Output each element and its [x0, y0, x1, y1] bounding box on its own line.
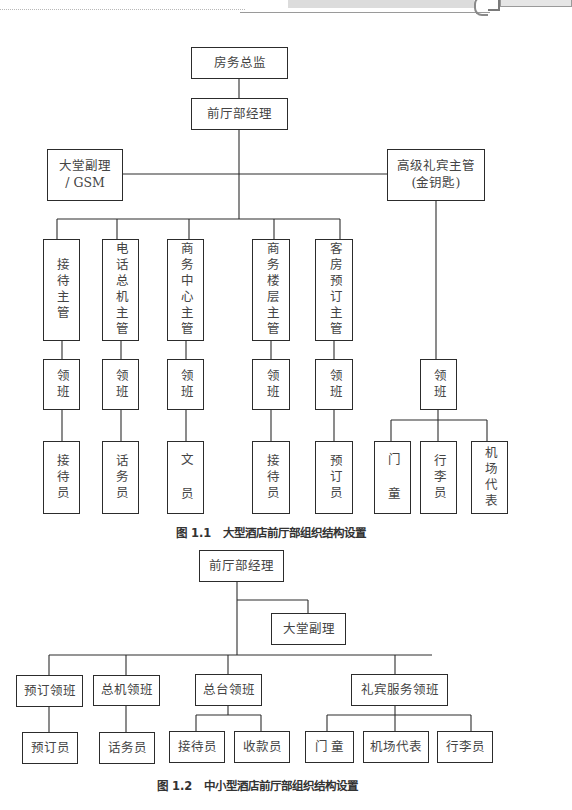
node-doorman: 门 童 [305, 731, 354, 763]
node-receptionist: 接待员 [43, 441, 80, 514]
node-label: 房务总监 [214, 55, 266, 72]
node-reservation-supervisor: 客房预订主管 [315, 239, 353, 341]
node-assistant-manager: 大堂副理 [271, 613, 346, 645]
node-reception-supervisor: 接待主管 [43, 239, 80, 341]
node-concierge-captain: 领班 [420, 359, 457, 410]
node-label: 前厅部经理 [209, 558, 274, 575]
node-label: 收款员 [243, 739, 282, 756]
node-label: 门 童 [386, 453, 399, 503]
node-business-center-supervisor: 商务中心主管 [167, 239, 204, 341]
node-label: 领班 [114, 369, 127, 401]
node-receptionist: 接待员 [252, 441, 290, 514]
node-captain: 领班 [167, 359, 204, 410]
node-doorman: 门 童 [374, 441, 411, 514]
node-label: 预订员 [31, 740, 70, 757]
node-operator: 话务员 [99, 732, 155, 764]
node-label: 行李员 [446, 739, 485, 756]
node-label: 领班 [265, 369, 278, 401]
node-label: 门 童 [315, 739, 345, 756]
node-label: 话务员 [108, 740, 147, 757]
node-airport-rep: 机场代表 [471, 441, 508, 514]
node-label: 接待员 [265, 454, 278, 502]
node-label: 接待主管 [55, 258, 68, 322]
node-operator: 话务员 [102, 441, 139, 514]
node-label: 领班 [328, 369, 341, 401]
node-assistant-manager-gsm: 大堂副理 / GSM [47, 149, 123, 201]
node-label: 预订领班 [24, 683, 76, 700]
node-label: 客房预订主管 [328, 242, 341, 338]
node-concierge-captain: 礼宾服务领班 [351, 674, 448, 706]
node-reservation-clerk: 预订员 [22, 732, 78, 764]
node-label: 机场代表 [370, 739, 422, 756]
node-clerk: 文 员 [167, 441, 204, 514]
node-label: 商务楼层主管 [265, 242, 278, 338]
node-reservation-captain: 预订领班 [16, 675, 83, 707]
node-label: 电话总机主管 [114, 242, 127, 338]
node-operator-supervisor: 电话总机主管 [102, 239, 139, 341]
node-label-sub: (金钥匙) [412, 175, 461, 192]
figure-2-caption: 图 1.2 中小型酒店前厅部组织结构设置 [157, 777, 358, 793]
node-label: 预订员 [328, 454, 341, 502]
node-captain: 领班 [315, 359, 353, 410]
node-label: 领班 [55, 369, 68, 401]
node-reservation-clerk: 预订员 [315, 441, 353, 514]
node-label: 文 员 [179, 453, 192, 503]
node-label: 话务员 [114, 454, 127, 502]
node-receptionist: 接待员 [169, 731, 225, 763]
node-bellman: 行李员 [437, 731, 493, 763]
figure-1-caption: 图 1.1 大型酒店前厅部组织结构设置 [176, 524, 366, 540]
node-front-office-manager: 前厅部经理 [191, 98, 288, 130]
node-label: 大堂副理 [59, 158, 111, 175]
node-label: 机场代表 [483, 446, 496, 510]
node-executive-floor-supervisor: 商务楼层主管 [252, 239, 290, 341]
node-label: 前厅部经理 [207, 106, 272, 123]
node-cashier: 收款员 [234, 731, 290, 763]
node-label: 大堂副理 [283, 621, 335, 638]
node-captain: 领班 [102, 359, 139, 410]
node-front-desk-captain: 总台领班 [195, 674, 262, 706]
node-label: 接待员 [55, 454, 68, 502]
node-airport-rep: 机场代表 [363, 731, 429, 763]
node-front-office-manager: 前厅部经理 [199, 550, 284, 582]
node-label: 商务中心主管 [179, 242, 192, 338]
node-label: 行李员 [432, 454, 445, 502]
node-bellman: 行李员 [420, 441, 457, 514]
node-label: 领班 [179, 369, 192, 401]
node-chief-concierge: 高级礼宾主管 (金钥匙) [387, 149, 485, 201]
node-label: 接待员 [178, 739, 217, 756]
node-captain: 领班 [252, 359, 290, 410]
node-label: 总机领班 [101, 682, 153, 699]
node-label: 高级礼宾主管 [397, 158, 475, 175]
node-label-sub: / GSM [65, 175, 105, 192]
node-label: 总台领班 [203, 682, 255, 699]
node-housekeeping-director: 房务总监 [191, 47, 288, 79]
node-label: 礼宾服务领班 [361, 682, 439, 699]
node-operator-captain: 总机领班 [93, 675, 160, 706]
node-label: 领班 [432, 369, 445, 401]
node-captain: 领班 [43, 359, 80, 410]
